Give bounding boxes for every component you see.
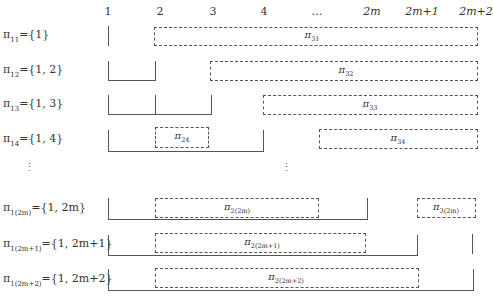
block-label-pi-2-2m-plus-2: π2(2m+2): [268, 271, 304, 285]
partition-bracket-base: [108, 114, 212, 115]
block-label-pi-31: π31: [305, 29, 320, 43]
partition-bracket-base: [108, 255, 418, 256]
row-label-set: ={1, 2}: [19, 63, 63, 76]
row-label-sub: 1(2m+2): [10, 280, 41, 288]
column-label-2m: 2m: [363, 5, 380, 18]
partition-bracket-right: [417, 235, 418, 256]
partition-bracket-base: [108, 151, 264, 152]
row-label-pi-12: π12={1, 2}: [3, 63, 63, 78]
partition-bracket-right: [155, 61, 156, 81]
block-label-pi-2-2m: π2(2m): [224, 201, 250, 215]
row-label-set: ={1, 2m+2}: [42, 272, 113, 285]
vertical-ellipsis-middle: ⋮: [281, 166, 292, 170]
partition-bracket-left: [108, 61, 109, 81]
block-label-pi-3-2m: π3(2m): [433, 201, 459, 215]
row-label-sub: 14: [10, 140, 19, 148]
partition-bracket-base: [108, 219, 368, 220]
row-label-set: ={1, 2m}: [31, 201, 86, 214]
partition-bracket-base: [108, 80, 156, 81]
row-label-set: ={1, 3}: [19, 97, 63, 110]
partition-bracket-left: [108, 198, 109, 220]
partition-bracket-base: [108, 290, 474, 291]
row-label-pi-13: π13={1, 3}: [3, 97, 63, 112]
row-label-pi-1-2m: π1(2m)={1, 2m}: [3, 201, 86, 216]
row-label-sub: 1(2m+1): [10, 245, 41, 253]
row-label-sub: 12: [10, 71, 19, 79]
column-label-2m-plus-1: 2m+1: [405, 5, 439, 18]
block-label-pi-2-2m-plus-1: π2(2m+1): [244, 236, 280, 250]
column-label-1: 1: [105, 5, 112, 18]
row-label-pi-1-2m-plus-1: π1(2m+1)={1, 2m+1}: [3, 237, 112, 252]
partition-bracket-left: [108, 130, 109, 152]
column-label-2: 2: [157, 5, 164, 18]
row-label-pi-14: π14={1, 4}: [3, 132, 63, 147]
row-label-set: ={1, 2m+1}: [42, 237, 113, 250]
singleton-tick: [472, 234, 473, 254]
column-label-ellipsis: …: [312, 5, 323, 18]
partition-bracket-middle: [155, 95, 156, 115]
block-label-pi-32: π32: [339, 64, 354, 78]
block-label-pi-24: π24: [175, 130, 190, 144]
partition-bracket-left: [108, 95, 109, 115]
partition-bracket-left: [108, 235, 109, 256]
row-label-sub: 1(2m): [10, 209, 31, 217]
partition-bracket-right: [211, 95, 212, 115]
row-label-set: ={1, 4}: [19, 132, 63, 145]
vertical-ellipsis-left: ⋮: [24, 166, 35, 170]
row-label-set: ={1}: [19, 28, 49, 41]
column-label-4: 4: [261, 5, 268, 18]
column-label-2m-plus-2: 2m+2: [459, 5, 493, 18]
partition-bracket-right: [367, 198, 368, 220]
partition-bracket-left: [108, 269, 109, 291]
column-label-3: 3: [210, 5, 217, 18]
partition-bracket-right: [263, 130, 264, 152]
row-label-pi-11: π11={1}: [3, 28, 49, 43]
row-label-sub: 13: [10, 105, 19, 113]
block-label-pi-33: π33: [363, 98, 378, 112]
partition-bracket-tick: [108, 26, 109, 46]
block-label-pi-34: π34: [391, 132, 406, 146]
partition-bracket-right: [473, 269, 474, 291]
row-label-pi-1-2m-plus-2: π1(2m+2)={1, 2m+2}: [3, 272, 112, 287]
row-label-sub: 11: [10, 36, 19, 44]
